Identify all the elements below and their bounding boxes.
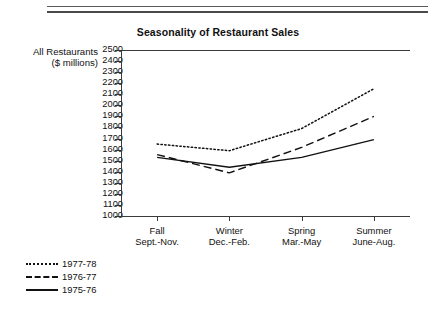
legend-swatch-dotted bbox=[26, 263, 58, 265]
legend-swatch-dashed bbox=[26, 276, 58, 278]
legend-label: 1977-78 bbox=[62, 258, 96, 270]
chart-legend: 1977-781976-771975-76 bbox=[26, 258, 156, 297]
series-line-1976-77 bbox=[157, 116, 374, 172]
chart-page: Seasonality of Restaurant Sales All Rest… bbox=[0, 0, 436, 310]
legend-label: 1975-76 bbox=[62, 284, 96, 296]
legend-item: 1976-77 bbox=[26, 271, 156, 283]
legend-item: 1977-78 bbox=[26, 258, 156, 270]
legend-swatch-solid bbox=[26, 289, 58, 291]
series-line-1977-78 bbox=[157, 89, 374, 151]
legend-label: 1976-77 bbox=[62, 271, 96, 283]
legend-item: 1975-76 bbox=[26, 284, 156, 296]
series-line-1975-76 bbox=[157, 140, 374, 168]
